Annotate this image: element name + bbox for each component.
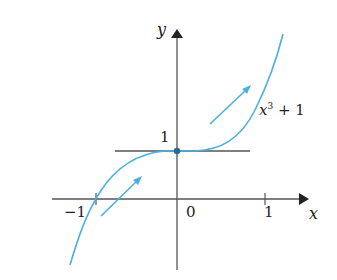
tick-label-y1: 1 xyxy=(160,130,170,145)
point-0-1 xyxy=(174,148,180,154)
arrow-right-icon xyxy=(210,85,251,124)
y-axis-label: y xyxy=(157,22,166,38)
y-axis-arrow-icon xyxy=(171,29,183,38)
function-rest: + 1 xyxy=(273,101,305,119)
x-axis-label: x xyxy=(309,206,318,222)
function-label: x3 + 1 xyxy=(259,102,305,118)
tick-label-neg1: −1 xyxy=(64,205,86,220)
tick-label-0: 0 xyxy=(186,205,196,220)
tick-label-1: 1 xyxy=(264,205,274,220)
x-axis-arrow-icon xyxy=(299,193,309,205)
